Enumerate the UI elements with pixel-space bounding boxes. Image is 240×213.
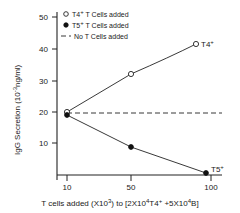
y-tick-label-50: 50 — [39, 13, 48, 22]
legend-label-t4: T4+ T Cells added — [72, 9, 129, 18]
series-t5-line — [67, 115, 206, 173]
data-point-t5-10 — [65, 113, 70, 118]
y-tick-label-40: 40 — [39, 45, 48, 54]
data-point-t4-50 — [128, 71, 133, 76]
y-tick-label-10: 10 — [39, 139, 48, 148]
y-tick-label-20: 20 — [39, 108, 48, 117]
chart-legend: T4+ T Cells added T5+ T Cells added No T… — [61, 9, 129, 40]
legend-marker-t4-icon — [64, 12, 69, 17]
legend-label-no-t-cells: No T Cells added — [74, 33, 128, 40]
x-tick-label-50: 50 — [127, 183, 136, 192]
annotation-t4: T4+ — [201, 39, 214, 49]
x-tick-label-100: 100 — [204, 183, 218, 192]
data-point-t5-100 — [204, 171, 209, 176]
y-tick-label-30: 30 — [39, 77, 48, 86]
annotation-t5: T5+ — [211, 164, 224, 174]
legend-label-t5: T5+ T Cells added — [72, 20, 129, 29]
x-axis-title: T cells added (X103) to [2X104T4+ +5X104… — [41, 198, 198, 208]
data-point-t5-50 — [129, 145, 134, 150]
x-axis-ticks — [67, 175, 211, 181]
y-axis-ticks — [52, 17, 57, 143]
chart-figure: 50 40 30 20 10 10 50 100 — [0, 0, 240, 213]
x-tick-label-10: 10 — [63, 183, 72, 192]
data-point-t4-100 — [193, 41, 198, 46]
igg-secretion-line-chart: 50 40 30 20 10 10 50 100 — [0, 0, 240, 213]
y-axis-title: IgG Secretion (10-3ng/ml) — [12, 64, 22, 155]
series-t4-line — [67, 44, 196, 112]
legend-marker-t5-icon — [64, 23, 68, 27]
